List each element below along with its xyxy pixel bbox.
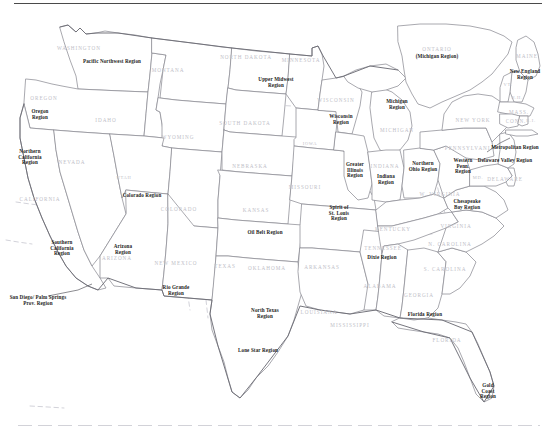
map-geometry xyxy=(0,0,555,435)
state-borders xyxy=(20,24,540,402)
us-regions-map: WASHINGTONOREGONIDAHOMONTANANEVADACALIFO… xyxy=(0,0,555,435)
